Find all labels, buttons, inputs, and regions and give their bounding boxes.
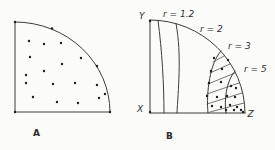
data-point-dot [51,27,53,29]
quarter-region-edges-A [15,22,110,112]
data-point-dot [210,70,212,72]
data-point-dot [96,84,98,86]
data-point-dot [206,95,208,97]
label-r-5: r = 5 [244,64,267,74]
data-point-dot [208,82,210,84]
hatch-line [207,83,239,94]
label-Y: Y [139,11,146,21]
contour-r-2 [176,24,179,113]
label-Z: Z [247,109,255,119]
data-point-dot [14,21,16,23]
contour-r-1.2 [158,21,164,114]
data-point-dot [221,68,223,70]
data-point-dot [29,56,31,58]
label-r-1.2: r = 1.2 [163,9,195,19]
data-point-dot [61,63,63,65]
label-r-2: r = 2 [200,24,223,34]
data-point-dot [80,57,82,59]
label-X: X [136,104,144,114]
data-point-dot [52,83,54,85]
data-point-dot [240,109,242,111]
data-point-dot [227,59,229,61]
data-point-dot [149,111,151,113]
data-point-dot [74,82,76,84]
hatch-line [207,93,242,104]
panel-B-caption: B [166,131,173,141]
data-point-dot [25,74,27,76]
label-r-3: r = 3 [228,41,251,51]
quarter-arc-A [15,22,110,112]
panel-A-caption: A [33,128,40,138]
data-point-dot [220,81,222,83]
panel-B: YXZr = 1.2r = 2r = 3r = 5B [136,9,267,141]
data-point-dot [25,82,27,84]
data-point-dot [216,96,218,98]
data-point-dot [236,106,238,108]
data-point-dot [32,96,34,98]
data-point-dot [149,20,151,22]
data-point-dot [229,104,231,106]
data-point-dot [235,87,237,89]
data-point-dot [43,43,45,45]
data-point-dot [104,93,106,95]
data-point-dot [213,57,215,59]
data-point-dot [220,106,222,108]
data-point-dot [234,96,236,98]
figure-svg: AYXZr = 1.2r = 2r = 3r = 5B [0,0,275,150]
data-point-dot [60,42,62,44]
data-point-dot [28,40,30,42]
panel-A: A [14,21,111,138]
figure-stage: AYXZr = 1.2r = 2r = 3r = 5B [0,0,275,150]
data-point-dot [96,65,98,67]
data-point-dot [211,105,213,107]
data-point-dot [43,70,45,72]
data-point-dot [226,95,228,97]
data-point-dot [56,101,58,103]
data-point-dot [109,111,111,113]
data-point-dot [77,102,79,104]
data-point-dot [233,109,235,111]
data-point-dot [230,85,232,87]
data-point-dot [242,111,244,113]
data-point-dot [14,111,16,113]
data-point-dot [98,97,100,99]
data-point-dot [225,109,227,111]
